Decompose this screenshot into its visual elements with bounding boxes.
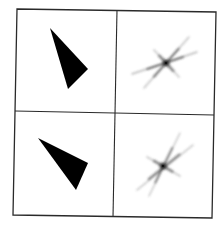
star-center-dot xyxy=(162,165,165,168)
triangle-fourier-figure xyxy=(0,0,224,233)
star-center-dot xyxy=(165,62,168,65)
background xyxy=(0,0,224,233)
